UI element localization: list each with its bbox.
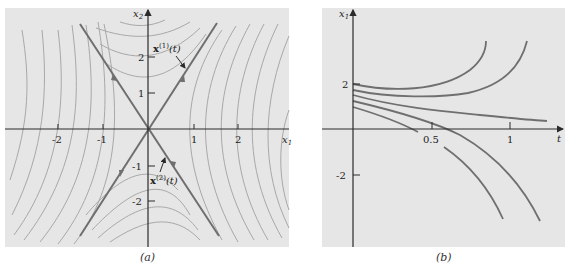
x-tick-label: -1: [97, 134, 107, 145]
caption-b: (b): [436, 251, 452, 264]
t-tick-label: 1: [507, 134, 513, 145]
x-tick-label: 1: [191, 134, 197, 145]
y-tick-label: -2: [132, 196, 142, 207]
x1-tick-label: 2: [342, 79, 348, 90]
figure-canvas: x2 x1 -2 -1 1 2 2 1 -1 -2 x(1)(t) x(2)(t…: [0, 0, 570, 267]
y-tick-label: -1: [132, 161, 142, 172]
caption-a: (a): [140, 251, 155, 264]
y-tick-label: 1: [138, 88, 144, 99]
y-tick-label: 2: [138, 52, 144, 63]
t-tick-label: 0.5: [423, 134, 439, 145]
panel-a: [5, 8, 289, 247]
panel-b: [322, 8, 565, 247]
x-tick-label: 2: [235, 134, 241, 145]
x1-tick-label: -2: [336, 170, 346, 181]
x-tick-label: -2: [52, 134, 62, 145]
